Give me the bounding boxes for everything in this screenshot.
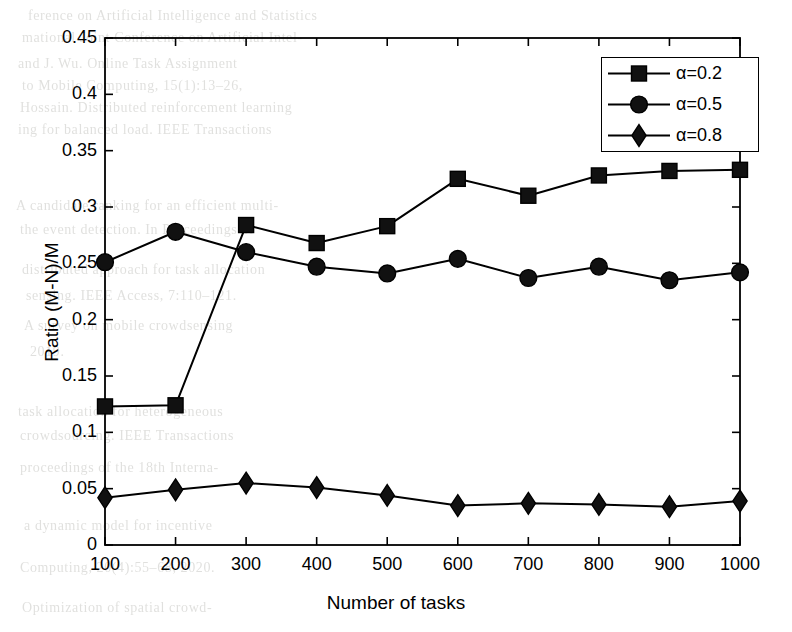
x-tick-label: 300 <box>206 554 286 575</box>
x-tick-label: 1000 <box>700 554 780 575</box>
series-2 <box>97 223 749 288</box>
y-tick-label: 0.4 <box>17 83 97 104</box>
data-series-layer <box>97 162 749 517</box>
y-axis-title: Ratio (M-N)/M <box>41 152 63 452</box>
x-tick-label: 900 <box>629 554 709 575</box>
y-tick-label: 0.45 <box>17 27 97 48</box>
legend-label: α=0.8 <box>676 125 722 146</box>
legend-item-3[interactable]: α=0.8 <box>602 120 758 151</box>
legend-marker-diamond-icon <box>602 120 676 151</box>
legend-item-1[interactable]: α=0.2 <box>602 58 758 89</box>
legend-item-2[interactable]: α=0.5 <box>602 89 758 120</box>
x-tick-label: 500 <box>347 554 427 575</box>
x-tick-label: 400 <box>277 554 357 575</box>
x-tick-label: 700 <box>488 554 568 575</box>
y-tick-label: 0 <box>17 534 97 555</box>
x-axis-title: Number of tasks <box>0 592 792 614</box>
x-tick-label: 600 <box>418 554 498 575</box>
legend-label: α=0.2 <box>676 63 722 84</box>
x-tick-label: 800 <box>559 554 639 575</box>
legend-label: α=0.5 <box>676 94 722 115</box>
x-tick-label: 100 <box>65 554 145 575</box>
series-1 <box>98 162 748 414</box>
series-3 <box>98 472 747 517</box>
legend-marker-square-icon <box>602 58 676 89</box>
y-tick-label: 0.05 <box>17 478 97 499</box>
chart-figure: 00.050.10.150.20.250.30.350.40.45 100200… <box>0 0 792 632</box>
x-tick-label: 200 <box>136 554 216 575</box>
chart-legend[interactable]: α=0.2α=0.5α=0.8 <box>601 57 759 152</box>
legend-marker-circle-icon <box>602 89 676 120</box>
